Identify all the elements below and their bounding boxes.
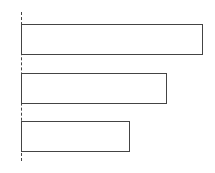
bar-3 — [21, 121, 130, 152]
bar-1 — [21, 24, 203, 55]
horizontal-bar-chart — [0, 0, 215, 173]
bar-2 — [21, 73, 167, 104]
